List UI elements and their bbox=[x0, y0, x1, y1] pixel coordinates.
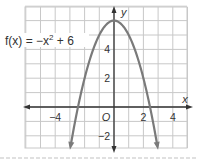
x-tick-label: −4 bbox=[49, 111, 61, 123]
origin-label: O bbox=[102, 111, 111, 123]
parabola-graph: xyO−42442−2f(x) = −x2 + 6 bbox=[0, 0, 198, 162]
x-tick-label: 4 bbox=[170, 111, 176, 123]
x-axis-arrow-right-icon bbox=[186, 105, 193, 110]
x-axis-arrow-left-icon bbox=[23, 105, 30, 110]
function-label: f(x) = −x2 + 6 bbox=[5, 33, 74, 48]
curve-arrow-right-icon bbox=[154, 141, 160, 149]
y-tick-label: 2 bbox=[104, 72, 110, 84]
y-axis-label: y bbox=[120, 6, 128, 18]
y-axis-arrow-down-icon bbox=[112, 146, 117, 153]
curve-arrow-left-icon bbox=[68, 141, 74, 149]
y-tick-label: 4 bbox=[104, 43, 110, 55]
y-tick-label: −2 bbox=[98, 130, 110, 142]
x-tick-label: 2 bbox=[140, 111, 146, 123]
x-axis-label: x bbox=[181, 93, 188, 105]
